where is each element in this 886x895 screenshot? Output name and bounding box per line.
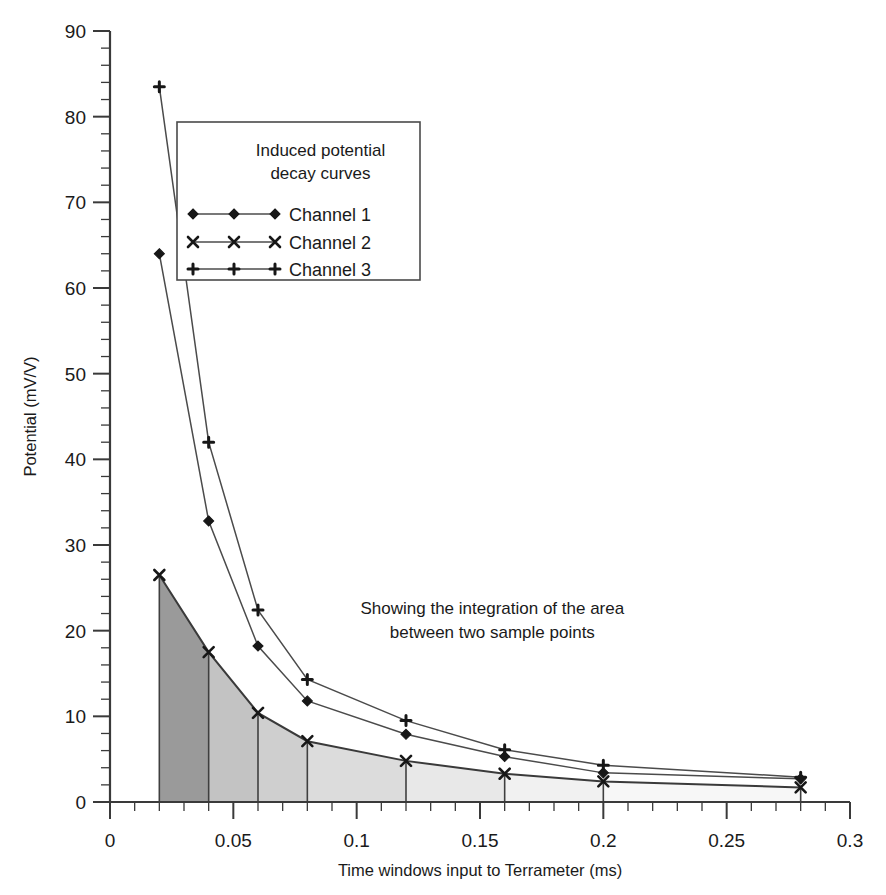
y-tick-label: 50 — [65, 364, 86, 385]
datapoint-channel-3 — [253, 605, 263, 615]
datapoint-channel-3 — [500, 745, 510, 755]
datapoint-channel-3 — [598, 760, 608, 770]
integration-band — [159, 575, 208, 802]
y-axis-title: Potential (mV/V) — [21, 356, 39, 476]
datapoint-channel-1 — [401, 729, 411, 739]
x-tick-label: 0.15 — [462, 830, 499, 851]
y-tick-label: 20 — [65, 621, 86, 642]
legend-title-line1: Induced potential — [256, 141, 386, 160]
integration-note-line2: between two sample points — [390, 623, 595, 642]
integration-note-line1: Showing the integration of the area — [360, 599, 624, 618]
x-tick-label: 0 — [105, 830, 116, 851]
datapoint-channel-3 — [401, 716, 411, 726]
datapoint-channel-3 — [302, 674, 312, 684]
datapoint-channel-3 — [154, 82, 164, 92]
y-tick-label: 60 — [65, 278, 86, 299]
x-tick-label: 0.25 — [708, 830, 745, 851]
x-tick-label: 0.05 — [215, 830, 252, 851]
legend-label-3: Channel 3 — [289, 260, 371, 280]
decay-curves-chart: 00.050.10.150.20.250.3Time windows input… — [0, 0, 886, 895]
y-tick-label: 40 — [65, 449, 86, 470]
integration-band — [209, 652, 258, 802]
datapoint-channel-1 — [204, 516, 214, 526]
y-tick-label: 0 — [75, 792, 86, 813]
y-tick-label: 70 — [65, 192, 86, 213]
x-axis-title: Time windows input to Terrameter (ms) — [338, 861, 622, 879]
y-tick-label: 10 — [65, 706, 86, 727]
legend-label-1: Channel 1 — [289, 205, 371, 225]
x-tick-label: 0.2 — [590, 830, 616, 851]
legend-label-2: Channel 2 — [289, 233, 371, 253]
legend-title-line2: decay curves — [270, 164, 370, 183]
y-tick-label: 30 — [65, 535, 86, 556]
datapoint-channel-1 — [154, 249, 164, 259]
x-tick-label: 0.3 — [837, 830, 863, 851]
series-line-channel-1 — [159, 254, 800, 779]
chart-figure: 00.050.10.150.20.250.3Time windows input… — [0, 0, 886, 895]
datapoint-channel-3 — [204, 437, 214, 447]
y-tick-label: 80 — [65, 107, 86, 128]
x-tick-label: 0.1 — [343, 830, 369, 851]
y-tick-label: 90 — [65, 21, 86, 42]
